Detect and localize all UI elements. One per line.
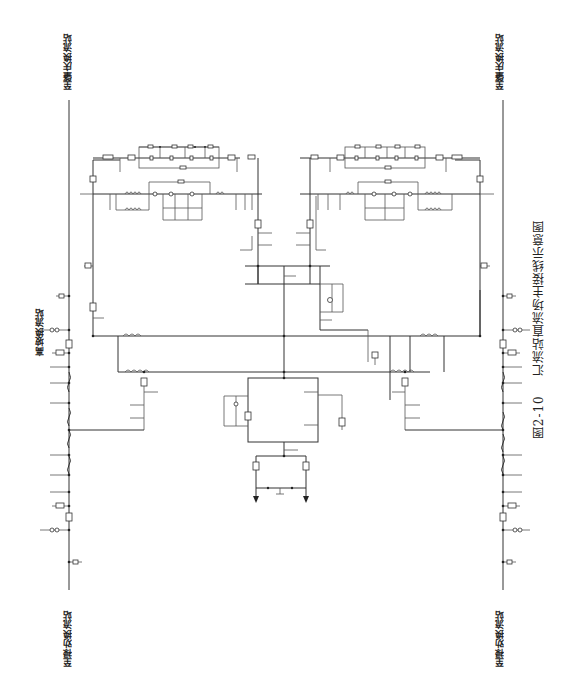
filter-row-upper-right	[300, 180, 480, 220]
filter-bank-upper-left	[93, 145, 255, 172]
right-line-taps	[500, 294, 530, 564]
ground-electrode-section	[224, 378, 345, 503]
filter-bank-upper-right	[300, 145, 480, 172]
left-center-link	[240, 158, 272, 284]
left-line-taps	[40, 294, 82, 564]
left-pole-bus	[80, 160, 480, 336]
junction-dots	[68, 265, 505, 458]
filter-row-upper-left	[93, 180, 262, 220]
schematic-diagram	[0, 0, 576, 694]
right-pole-bus	[455, 160, 494, 336]
right-center-link	[296, 158, 326, 284]
neutral-bus	[69, 266, 503, 430]
